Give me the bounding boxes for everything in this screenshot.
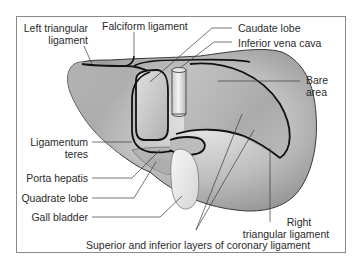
label-gall-bladder: Gall bladder: [20, 211, 88, 223]
label-line: Left triangular: [20, 22, 88, 34]
label-left-triangular-ligament: Left triangular ligament: [20, 22, 88, 46]
label-line: Ligamentum: [20, 136, 88, 148]
label-falciform-ligament: Falciform ligament: [102, 20, 188, 32]
label-inferior-vena-cava: Inferior vena cava: [238, 37, 321, 49]
inferior-vena-cava-top: [172, 68, 186, 73]
inferior-vena-cava: [172, 70, 186, 114]
label-line: ligament: [20, 34, 88, 46]
label-line: Right: [226, 216, 346, 228]
label-coronary-ligament: Superior and inferior layers of coronary…: [86, 239, 310, 251]
label-line: Bare: [306, 74, 328, 86]
label-quadrate-lobe: Quadrate lobe: [16, 192, 88, 204]
label-caudate-lobe: Caudate lobe: [238, 22, 300, 34]
label-line: teres: [20, 148, 88, 160]
liver-diagram: Left triangular ligament Falciform ligam…: [0, 0, 358, 264]
label-line: area: [306, 86, 328, 98]
label-bare-area: Bare area: [306, 74, 328, 98]
label-right-triangular-ligament: Right triangular ligament: [226, 216, 346, 240]
label-porta-hepatis: Porta hepatis: [20, 172, 88, 184]
label-ligamentum-teres: Ligamentum teres: [20, 136, 88, 160]
